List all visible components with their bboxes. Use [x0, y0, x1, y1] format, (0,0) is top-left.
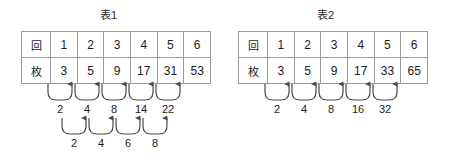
first-difference-label: 2	[48, 103, 72, 115]
table-row-values: 枚 3 5 9 17 33 65	[239, 58, 428, 84]
first-difference-label: 2	[265, 103, 289, 115]
row-label-mai: 枚	[22, 58, 51, 84]
arrow-d1-3	[102, 84, 126, 100]
first-difference-label: 32	[373, 103, 397, 115]
value-cell: 17	[130, 58, 157, 84]
row-label-kai: 回	[239, 32, 268, 58]
value-cell: 3	[51, 58, 78, 84]
header-cell: 1	[51, 32, 78, 58]
table-row-header: 回 1 2 3 4 5 6	[239, 32, 428, 58]
arrow-d2-2	[89, 118, 113, 134]
header-cell: 3	[321, 32, 348, 58]
value-cell: 9	[321, 58, 348, 84]
header-cell: 4	[347, 32, 374, 58]
value-cell: 3	[268, 58, 295, 84]
figure-title: 表2	[223, 8, 428, 22]
value-cell: 65	[401, 58, 428, 84]
value-cell: 9	[104, 58, 131, 84]
header-cell: 2	[77, 32, 104, 58]
second-difference-arrow-group	[62, 118, 167, 134]
first-difference-arrow-group	[48, 84, 180, 100]
header-cell: 6	[184, 32, 211, 58]
arrow-d2-1	[62, 118, 86, 134]
figure-title: 表1	[6, 8, 211, 22]
header-cell: 5	[157, 32, 184, 58]
header-cell: 2	[294, 32, 321, 58]
data-table: 回 1 2 3 4 5 6 枚 3 5 9 17 33 65	[238, 31, 428, 84]
figure-table2: 表2 回 1 2 3 4 5 6 枚 3 5 9 17 33 65	[223, 0, 438, 159]
first-difference-label: 8	[102, 103, 126, 115]
arrow-d1-3	[319, 84, 343, 100]
figure-table1: 表1 回 1 2 3 4 5 6 枚 3 5 9 17 31 53	[6, 0, 221, 159]
value-cell: 33	[374, 58, 401, 84]
second-difference-label: 6	[116, 137, 140, 149]
header-cell: 3	[104, 32, 131, 58]
first-difference-arrow-group	[265, 84, 397, 100]
arrow-d1-5	[156, 84, 180, 100]
value-cell: 53	[184, 58, 211, 84]
arrow-d1-4	[129, 84, 153, 100]
value-cell: 5	[77, 58, 104, 84]
arrow-d1-1	[48, 84, 72, 100]
second-difference-label: 8	[143, 137, 167, 149]
arrow-d1-5	[373, 84, 397, 100]
arrow-d2-3	[116, 118, 140, 134]
arrow-d1-4	[346, 84, 370, 100]
second-difference-label: 2	[62, 137, 86, 149]
row-label-mai: 枚	[239, 58, 268, 84]
value-cell: 5	[294, 58, 321, 84]
header-cell: 4	[130, 32, 157, 58]
first-difference-label: 22	[156, 103, 180, 115]
header-cell: 5	[374, 32, 401, 58]
first-difference-label: 8	[319, 103, 343, 115]
second-difference-label: 4	[89, 137, 113, 149]
value-cell: 17	[347, 58, 374, 84]
arrow-d1-2	[292, 84, 316, 100]
first-difference-label: 14	[129, 103, 153, 115]
row-label-kai: 回	[22, 32, 51, 58]
arrow-d1-1	[265, 84, 289, 100]
value-cell: 31	[157, 58, 184, 84]
header-cell: 1	[268, 32, 295, 58]
arrow-d1-2	[75, 84, 99, 100]
data-table: 回 1 2 3 4 5 6 枚 3 5 9 17 31 53	[21, 31, 211, 84]
table-row-header: 回 1 2 3 4 5 6	[22, 32, 211, 58]
header-cell: 6	[401, 32, 428, 58]
figure-canvas: 表1 回 1 2 3 4 5 6 枚 3 5 9 17 31 53	[0, 0, 450, 159]
first-difference-label: 16	[346, 103, 370, 115]
arrow-d2-4	[143, 118, 167, 134]
first-difference-label: 4	[75, 103, 99, 115]
table-row-values: 枚 3 5 9 17 31 53	[22, 58, 211, 84]
first-difference-label: 4	[292, 103, 316, 115]
